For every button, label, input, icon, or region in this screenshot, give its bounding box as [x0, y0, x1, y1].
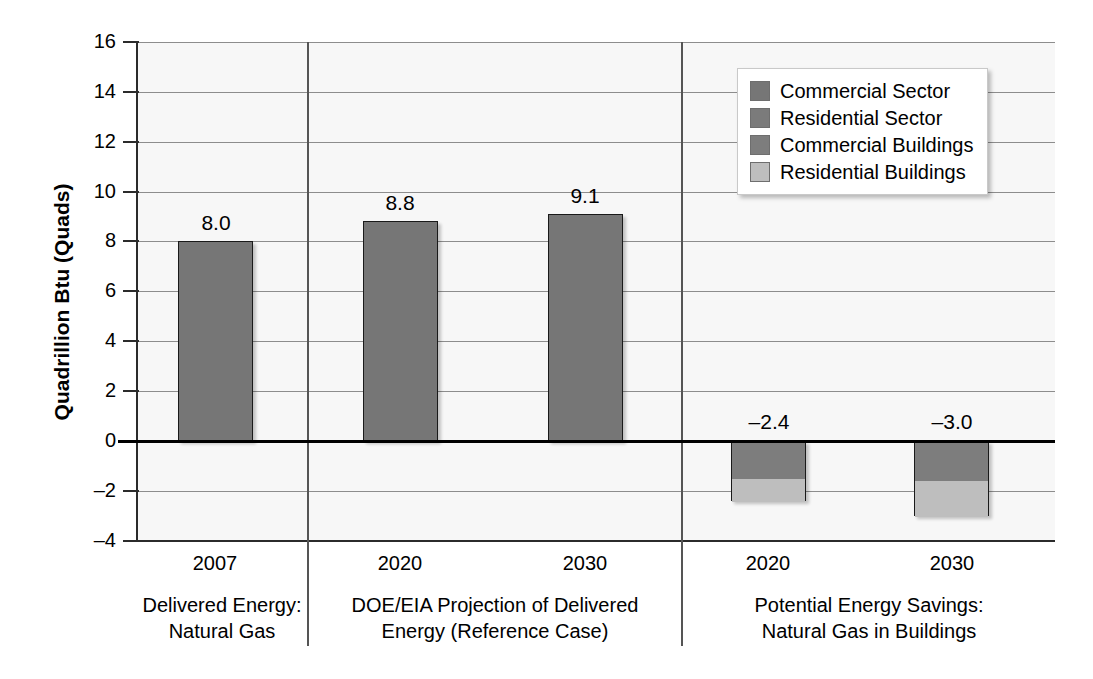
legend-label: Commercial Buildings	[780, 135, 973, 155]
chart-figure: Quadrillion Btu (Quads) 1614121086420–2–…	[0, 0, 1093, 679]
bar-segment	[364, 222, 437, 442]
legend-label: Residential Buildings	[780, 162, 966, 182]
legend-swatch-commercial-buildings	[750, 135, 770, 155]
bar[interactable]	[548, 214, 623, 441]
y-axis-tick-label: 16	[74, 31, 116, 51]
caption-line-2: Energy (Reference Case)	[309, 618, 681, 644]
bar-segment	[732, 442, 805, 479]
bar-segment	[915, 442, 988, 481]
legend-label: Commercial Sector	[780, 81, 950, 101]
x-tick-label-2020-savings: 2020	[718, 552, 818, 575]
y-axis-tick-label: 0	[74, 430, 116, 450]
bar[interactable]	[731, 441, 806, 501]
legend-swatch-commercial-sector	[750, 81, 770, 101]
y-axis-tick-label: 10	[74, 181, 116, 201]
bar-value-label: 8.8	[340, 191, 460, 215]
bar-value-label: –2.4	[709, 410, 829, 434]
bar[interactable]	[914, 441, 989, 516]
legend-item[interactable]: Residential Buildings	[750, 158, 973, 185]
y-axis-tick-label: 8	[74, 230, 116, 250]
gridline	[137, 42, 1055, 43]
bar-segment	[732, 479, 805, 501]
caption-line-1: Delivered Energy:	[137, 592, 307, 618]
bar-segment	[915, 481, 988, 517]
bar[interactable]	[178, 241, 253, 441]
bar-value-label: 9.1	[525, 184, 645, 208]
caption-line-1: Potential Energy Savings:	[683, 592, 1055, 618]
x-axis-line	[137, 540, 1055, 542]
bar-value-label: –3.0	[892, 410, 1012, 434]
legend: Commercial Sector Residential Sector Com…	[737, 68, 988, 195]
y-axis-tick-label: –4	[74, 530, 116, 550]
caption-line-2: Natural Gas	[137, 618, 307, 644]
legend-item[interactable]: Commercial Buildings	[750, 131, 973, 158]
x-tick-label-2020-projection: 2020	[350, 552, 450, 575]
legend-item[interactable]: Commercial Sector	[750, 77, 973, 104]
group-caption-delivered-energy: Delivered Energy: Natural Gas	[137, 592, 307, 644]
group-separator-2	[681, 42, 683, 646]
legend-item[interactable]: Residential Sector	[750, 104, 973, 131]
caption-line-1: DOE/EIA Projection of Delivered	[309, 592, 681, 618]
legend-label: Residential Sector	[780, 108, 942, 128]
bar[interactable]	[363, 221, 438, 441]
legend-swatch-residential-sector	[750, 108, 770, 128]
y-axis-tick-label: 6	[74, 280, 116, 300]
x-tick-label-2007: 2007	[165, 552, 265, 575]
y-axis-tick-label: 2	[74, 380, 116, 400]
y-axis-tick-label: –2	[74, 480, 116, 500]
y-axis-tick-label: 14	[74, 81, 116, 101]
y-axis-tick-label: 4	[74, 330, 116, 350]
legend-swatch-residential-buildings	[750, 162, 770, 182]
y-axis-tick-label: 12	[74, 131, 116, 151]
x-tick-label-2030-savings: 2030	[902, 552, 1002, 575]
bar-segment	[179, 242, 252, 442]
x-tick-label-2030-projection: 2030	[535, 552, 635, 575]
y-axis-line	[136, 42, 138, 542]
caption-line-2: Natural Gas in Buildings	[683, 618, 1055, 644]
zero-baseline	[118, 440, 1055, 443]
bar-value-label: 8.0	[156, 211, 276, 235]
group-caption-doe-eia-projection: DOE/EIA Projection of Delivered Energy (…	[309, 592, 681, 644]
group-caption-potential-savings: Potential Energy Savings: Natural Gas in…	[683, 592, 1055, 644]
bar-segment	[549, 215, 622, 442]
group-separator-1	[307, 42, 309, 646]
